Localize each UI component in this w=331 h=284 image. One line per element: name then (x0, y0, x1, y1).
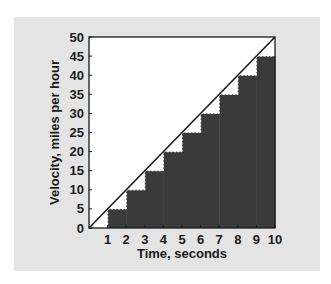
x-axis-title: Time, seconds (137, 246, 227, 261)
x-tick-label: 5 (178, 232, 185, 247)
step-bar (238, 75, 257, 228)
x-tick-label: 7 (216, 232, 223, 247)
x-tick-label: 8 (234, 232, 241, 247)
y-tick-label: 5 (77, 201, 84, 216)
step-bar (201, 113, 220, 228)
x-tick-label: 3 (141, 232, 148, 247)
x-tick-label: 2 (123, 232, 130, 247)
y-axis-title: Velocity, miles per hour (47, 60, 62, 205)
y-tick-label: 50 (70, 30, 84, 45)
y-tick-label: 0 (77, 221, 84, 236)
step-bar (219, 94, 238, 228)
step-bar (126, 190, 145, 228)
x-tick-label: 6 (197, 232, 204, 247)
step-bar (108, 209, 127, 228)
x-tick-label: 9 (253, 232, 260, 247)
y-tick-label: 20 (70, 144, 84, 159)
step-bar (182, 133, 201, 229)
y-tick-label: 45 (70, 49, 84, 64)
y-tick-label: 35 (70, 87, 84, 102)
x-tick-label: 4 (160, 232, 168, 247)
y-tick-label: 30 (70, 106, 84, 121)
y-tick-label: 15 (70, 163, 84, 178)
step-bar (163, 152, 182, 228)
y-tick-label: 25 (70, 125, 84, 140)
velocity-time-chart: 0510152025303540455012345678910Time, sec… (0, 0, 331, 284)
x-tick-label: 1 (104, 232, 111, 247)
y-tick-label: 40 (70, 68, 84, 83)
x-tick-label: 10 (268, 232, 282, 247)
step-bar (145, 171, 164, 228)
y-tick-label: 10 (70, 182, 84, 197)
step-bar (256, 56, 275, 228)
